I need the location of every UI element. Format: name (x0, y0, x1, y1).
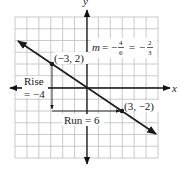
svg-text:3: 3 (148, 49, 152, 57)
point-label-neg3-2: (−3, 2) (54, 52, 84, 65)
svg-text:−: − (111, 41, 117, 53)
rise-label-line2: = −4 (24, 88, 45, 100)
graph-figure: x y (−3, 2) (3, −2) Rise = −4 Run = 6 m … (0, 0, 180, 171)
rise-label-line1: Rise (24, 75, 44, 87)
run-label: Run = 6 (64, 114, 100, 126)
svg-text:2: 2 (148, 39, 152, 47)
svg-text:=: = (102, 41, 108, 53)
point-label-3-neg2: (3, −2) (124, 100, 154, 113)
svg-text:−: − (139, 41, 145, 53)
svg-text:=: = (129, 41, 135, 53)
x-axis-label: x (171, 82, 177, 94)
svg-text:m: m (92, 41, 100, 53)
y-axis-label: y (82, 0, 88, 7)
coordinate-plane: x y (−3, 2) (3, −2) Rise = −4 Run = 6 m … (0, 0, 180, 171)
svg-text:6: 6 (119, 49, 123, 57)
svg-text:4: 4 (119, 39, 123, 47)
